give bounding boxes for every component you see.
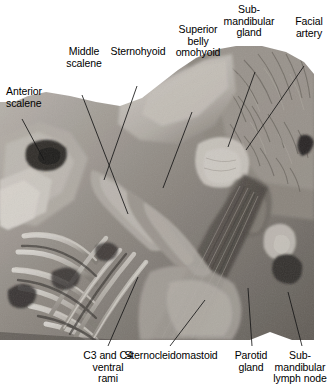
- dissection-photograph-image: [0, 40, 314, 340]
- label-anterior-scalene: Anterior scalene: [6, 86, 82, 109]
- anatomy-figure: Anterior scalene Middle scalene Sternohy…: [0, 0, 332, 387]
- label-sternocleidomastoid: Sternocleidomastoid: [116, 350, 226, 362]
- dissection-photograph: [0, 40, 314, 340]
- label-submandibular-gland: Sub- mandibular gland: [213, 4, 285, 39]
- label-submandibular-lymph-node: Sub- mandibular lymph node: [268, 350, 332, 385]
- label-facial-artery: Facial artery: [286, 16, 332, 39]
